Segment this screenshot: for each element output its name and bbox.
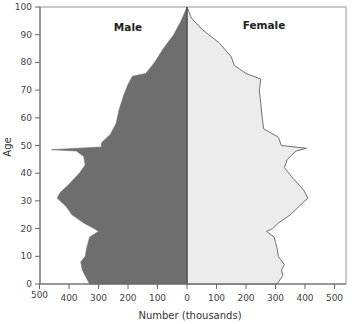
- x-tick-label: 100: [208, 293, 225, 303]
- y-tick-label: 90: [21, 30, 33, 40]
- x-axis: 5004003002001000100200300400500: [31, 284, 346, 303]
- male-label: Male: [114, 21, 142, 33]
- x-tick-label: 500: [326, 293, 343, 303]
- x-axis-title: Number (thousands): [138, 310, 241, 321]
- x-tick-label: 200: [119, 293, 136, 303]
- population-pyramid-chart: 0102030405060708090100 50040030020010001…: [0, 0, 357, 324]
- y-tick-label: 20: [21, 224, 33, 234]
- x-tick-label: 500: [31, 290, 48, 300]
- y-tick-label: 70: [21, 85, 33, 95]
- x-tick-label: 300: [267, 293, 284, 303]
- y-axis-title: Age: [2, 137, 13, 156]
- y-axis: 0102030405060708090100: [15, 2, 40, 289]
- x-tick-label: 300: [90, 293, 107, 303]
- y-tick-label: 60: [21, 113, 33, 123]
- y-tick-label: 0: [26, 279, 32, 289]
- y-tick-label: 40: [21, 168, 33, 178]
- x-tick-label: 100: [149, 293, 166, 303]
- y-tick-label: 10: [21, 251, 33, 261]
- x-tick-label: 200: [237, 293, 254, 303]
- y-tick-label: 50: [21, 141, 33, 151]
- y-tick-label: 30: [21, 196, 33, 206]
- y-tick-label: 80: [21, 57, 33, 67]
- y-tick-label: 100: [15, 2, 32, 12]
- x-tick-label: 400: [60, 293, 77, 303]
- x-tick-label: 0: [184, 293, 190, 303]
- female-label: Female: [243, 19, 286, 31]
- x-tick-label: 400: [296, 293, 313, 303]
